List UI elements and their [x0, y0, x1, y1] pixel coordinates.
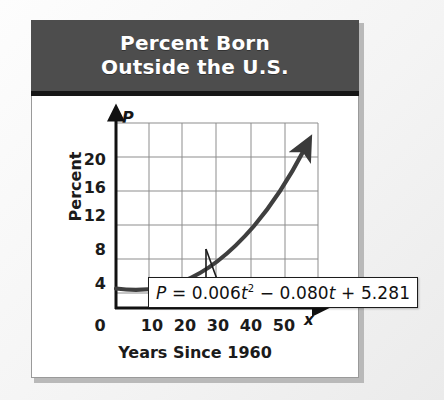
figure-title-line-2: Outside the U.S. [101, 56, 289, 80]
equation-term1-var: t [241, 283, 248, 303]
equation-text: P = 0.006t2 − 0.080t + 5.281 [156, 283, 410, 303]
equation-term2-coef: 0.080 [280, 283, 329, 303]
graph-svg [36, 101, 354, 373]
equation-operator-plus: + [341, 283, 355, 303]
grid-lines [116, 123, 318, 293]
equation-term1-coef: 0.006 [192, 283, 241, 303]
equation-term1-exponent: 2 [248, 283, 254, 294]
figure-title-banner: Percent Born Outside the U.S. [31, 20, 359, 96]
equation-constant: 5.281 [361, 283, 410, 303]
equation-lhs: P [156, 283, 166, 303]
plot-panel: Percent P x 20 16 12 8 4 0 10 20 30 40 5… [36, 101, 354, 373]
equation-callout-box: P = 0.006t2 − 0.080t + 5.281 [148, 277, 418, 308]
equation-term2-var: t [329, 283, 336, 303]
figure-title-line-1: Percent Born [120, 32, 270, 56]
equation-equals-sign: = [172, 283, 186, 303]
equation-operator-minus: − [260, 283, 274, 303]
figure-root: Percent Born Outside the U.S. Percent P … [0, 0, 444, 400]
regression-curve [116, 150, 304, 290]
